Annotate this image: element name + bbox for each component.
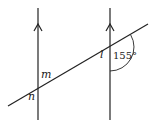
- angle-label: 155°: [113, 50, 137, 61]
- label-m: m: [41, 68, 51, 81]
- diagram-canvas: 155° l m n: [0, 0, 149, 124]
- label-n: n: [28, 90, 35, 103]
- label-l: l: [100, 48, 104, 61]
